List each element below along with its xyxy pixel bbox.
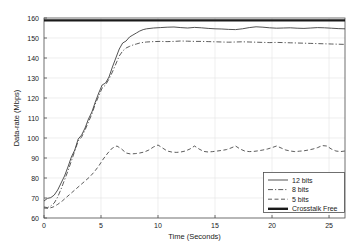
y-tick-label: 150 [27,35,39,42]
x-tick-label: 20 [268,222,276,229]
x-tick-label: 0 [42,222,46,229]
legend-label: Crosstalk Free [292,205,338,212]
x-tick-label: 15 [211,222,219,229]
legend-label: 12 bits [292,177,313,184]
legend-label: 8 bits [292,186,309,193]
chart-legend: 12 bits8 bits5 bitsCrosstalk Free [264,173,345,213]
chart-figure: 60708090100110120130140150160 0510152025… [0,0,363,251]
y-tick-label: 60 [31,215,39,222]
y-tick-label: 110 [28,115,39,122]
y-tick-label: 100 [27,135,39,142]
y-tick-label: 120 [27,95,39,102]
x-axis-title: Time (Seconds) [168,232,221,241]
y-tick-label: 80 [31,175,39,182]
line-chart: 60708090100110120130140150160 0510152025… [0,0,363,251]
x-axis-ticks: 0510152025 [42,215,333,229]
y-tick-label: 140 [27,55,39,62]
legend-label: 5 bits [292,196,309,203]
x-tick-label: 5 [99,222,103,229]
y-axis-title: Data-rate (Mbps) [12,89,21,146]
x-tick-label: 25 [325,222,333,229]
x-tick-label: 10 [154,222,162,229]
y-tick-label: 160 [27,15,39,22]
y-tick-label: 70 [31,195,39,202]
y-tick-label: 90 [31,155,39,162]
y-tick-label: 130 [27,75,39,82]
